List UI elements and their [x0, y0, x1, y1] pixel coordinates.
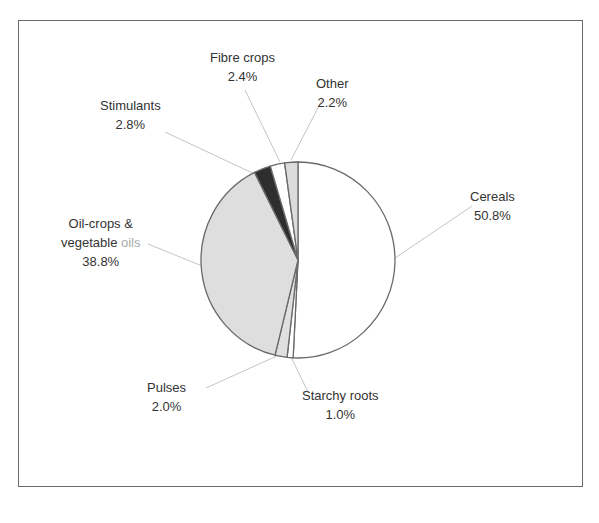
label-pulses: Pulses 2.0%	[147, 378, 186, 416]
label-stimulants: Stimulants 2.8%	[100, 96, 161, 134]
label-starchy-roots: Starchy roots 1.0%	[302, 386, 379, 424]
label-cereals-name: Cereals	[470, 187, 515, 206]
leader-line-cereals	[395, 206, 472, 258]
label-oil-line2: vegetable oils	[61, 233, 141, 252]
label-other-name: Other	[316, 74, 349, 93]
label-oil-line2a: vegetable	[61, 235, 121, 250]
label-fibre-pct: 2.4%	[210, 67, 275, 86]
label-starchy-name: Starchy roots	[302, 386, 379, 405]
label-pulses-name: Pulses	[147, 378, 186, 397]
pie-slice-cereals	[293, 162, 395, 358]
label-oil-line1: Oil-crops &	[61, 214, 141, 233]
pie-slices	[201, 162, 395, 358]
label-fibre-crops: Fibre crops 2.4%	[210, 48, 275, 86]
label-pulses-pct: 2.0%	[147, 397, 186, 416]
label-oil-pct: 38.8%	[61, 252, 141, 271]
label-oil-crops: Oil-crops & vegetable oils 38.8%	[61, 214, 141, 271]
leader-line-oil-crops	[148, 244, 207, 268]
label-fibre-name: Fibre crops	[210, 48, 275, 67]
leader-line-stimulants	[165, 132, 263, 178]
label-starchy-pct: 1.0%	[302, 405, 379, 424]
label-cereals: Cereals 50.8%	[470, 187, 515, 225]
label-stimulants-name: Stimulants	[100, 96, 161, 115]
leader-line-fibre-crops	[245, 90, 280, 162]
label-stimulants-pct: 2.8%	[100, 115, 161, 134]
label-cereals-pct: 50.8%	[470, 206, 515, 225]
label-other-pct: 2.2%	[316, 93, 349, 112]
label-oil-line2b: oils	[121, 235, 141, 250]
label-other: Other 2.2%	[316, 74, 349, 112]
leader-line-pulses	[206, 355, 279, 388]
